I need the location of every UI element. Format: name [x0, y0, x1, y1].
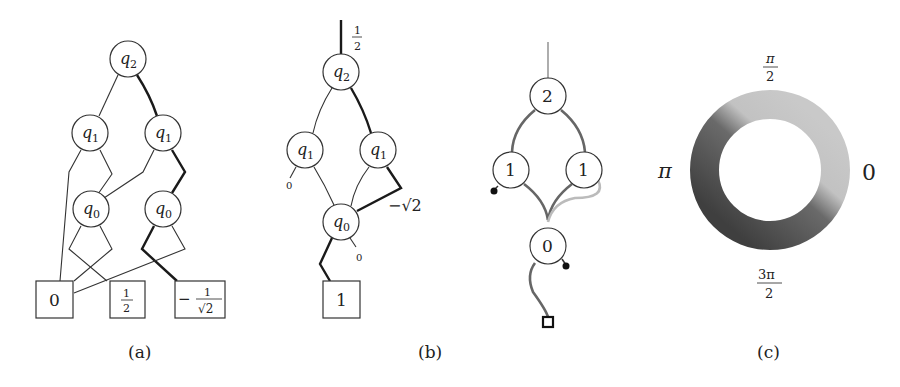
svg-text:2: 2	[766, 69, 774, 84]
node-2: 2	[530, 78, 566, 114]
node-q2: q 2	[323, 54, 359, 90]
node-1-right: 1	[566, 152, 602, 188]
terminal-one-half: 1 2	[110, 281, 145, 318]
svg-text:2: 2	[123, 302, 130, 315]
node-q0-left: q 0	[73, 191, 109, 227]
svg-text:q: q	[82, 123, 92, 142]
phase-ring	[705, 105, 836, 236]
node-0: 0	[530, 228, 566, 264]
svg-text:q: q	[83, 199, 93, 218]
svg-text:0: 0	[93, 208, 100, 221]
caption-a: (a)	[128, 342, 151, 362]
node-q1-left: q 1	[287, 132, 323, 168]
svg-text:3π: 3π	[758, 267, 775, 282]
node-q1-right: q 1	[360, 132, 396, 168]
svg-text:1: 1	[578, 160, 589, 180]
svg-text:2: 2	[343, 71, 350, 84]
svg-text:q: q	[333, 62, 343, 81]
zero-stub-q0: 0	[356, 252, 362, 263]
caption-b: (b)	[418, 342, 442, 362]
svg-text:1: 1	[204, 286, 211, 299]
panel-b-edges	[290, 88, 401, 281]
svg-text:q: q	[120, 49, 130, 68]
svg-text:√2: √2	[198, 302, 213, 316]
svg-text:q: q	[370, 140, 380, 159]
figure-canvas: q 2 q 1 q 1 q 0 q 0 0 1	[0, 0, 900, 387]
zero-stub-dot	[563, 263, 570, 270]
root-weight: 1 2	[352, 24, 362, 53]
svg-text:2: 2	[354, 40, 361, 53]
edge-weight-neg-sqrt2: −√2	[388, 196, 422, 215]
panel-b: 1 2 0 0 −√2 q 2 q 1 q	[286, 20, 442, 362]
panel-middle-edges	[493, 110, 600, 317]
svg-text:0: 0	[542, 236, 553, 256]
svg-text:0: 0	[343, 221, 350, 234]
svg-text:2: 2	[130, 58, 137, 71]
svg-text:q: q	[333, 212, 343, 231]
panel-middle: 2 1 1 0	[491, 42, 603, 327]
terminal-one: 1	[323, 281, 360, 318]
svg-text:1: 1	[505, 160, 516, 180]
label-pi-half: π 2	[763, 51, 778, 84]
panel-c: π 2 π 0 3π 2 (c)	[657, 51, 876, 362]
node-q2: q 2	[110, 41, 146, 77]
label-pi: π	[657, 159, 673, 183]
svg-text:1: 1	[307, 149, 314, 162]
svg-text:0: 0	[165, 208, 172, 221]
svg-text:−: −	[178, 290, 191, 308]
node-q1-right: q 1	[145, 115, 181, 151]
panel-a: q 2 q 1 q 1 q 0 q 0 0 1	[36, 41, 225, 362]
terminal-neg-inv-sqrt2: − 1 √2	[175, 281, 225, 318]
svg-text:q: q	[155, 123, 165, 142]
svg-text:2: 2	[765, 286, 773, 301]
svg-text:2: 2	[542, 86, 553, 106]
svg-text:1: 1	[336, 290, 347, 310]
panel-a-edges	[60, 75, 185, 293]
label-three-pi-half: 3π 2	[757, 267, 782, 301]
node-q0-right: q 0	[145, 191, 181, 227]
svg-text:1: 1	[165, 132, 172, 145]
label-zero: 0	[862, 160, 876, 185]
svg-text:0: 0	[49, 290, 60, 310]
terminal-zero: 0	[36, 281, 73, 318]
svg-text:π: π	[765, 51, 775, 66]
terminal-square	[543, 317, 553, 327]
zero-stub-q1: 0	[286, 180, 292, 191]
node-q0: q 0	[323, 204, 359, 240]
zero-stub-dot	[491, 188, 498, 195]
node-q1-left: q 1	[72, 115, 108, 151]
caption-c: (c)	[757, 342, 780, 362]
svg-text:q: q	[155, 199, 165, 218]
svg-text:q: q	[297, 140, 307, 159]
svg-text:1: 1	[380, 149, 387, 162]
svg-text:1: 1	[123, 287, 130, 300]
node-1-left: 1	[493, 152, 529, 188]
svg-text:1: 1	[92, 132, 99, 145]
svg-text:1: 1	[354, 24, 361, 37]
